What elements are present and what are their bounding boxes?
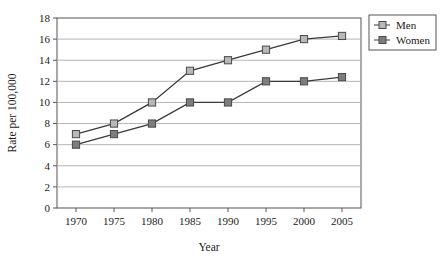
data-point-marker (262, 46, 269, 53)
x-tick-label: 1970 (65, 215, 88, 227)
x-tick-label: 1975 (103, 215, 126, 227)
line-chart: 024681012141618 197019751980198519901995… (0, 0, 444, 258)
data-point-marker (262, 78, 269, 85)
data-point-marker (224, 99, 231, 106)
y-tick-label: 16 (39, 33, 51, 45)
x-tick-label: 1995 (255, 215, 278, 227)
data-point-marker (338, 74, 345, 81)
legend-label-women: Women (396, 34, 430, 46)
chart-canvas: 024681012141618 197019751980198519901995… (0, 0, 444, 258)
data-point-marker (148, 99, 155, 106)
chart-legend: Men Women (369, 15, 436, 50)
y-tick-label: 8 (45, 117, 51, 129)
x-tick-label: 1980 (141, 215, 164, 227)
legend-marker-women-icon (379, 37, 386, 44)
legend-marker-men-icon (379, 22, 386, 29)
x-tick-label: 1990 (217, 215, 240, 227)
data-point-marker (110, 120, 117, 127)
data-point-marker (224, 57, 231, 64)
data-point-marker (300, 78, 307, 85)
data-point-marker (300, 36, 307, 43)
y-tick-label: 2 (45, 181, 51, 193)
data-point-marker (186, 67, 193, 74)
y-tick-label: 0 (45, 202, 51, 214)
plot-frame (57, 18, 361, 208)
data-point-marker (72, 141, 79, 148)
y-tick-label: 18 (39, 12, 51, 24)
x-tick-label: 1985 (179, 215, 202, 227)
x-tick-label: 2005 (331, 215, 354, 227)
data-point-marker (110, 131, 117, 138)
y-tick-label: 4 (45, 160, 51, 172)
legend-label-men: Men (396, 19, 417, 31)
y-axis-title: Rate per 100,000 (6, 73, 19, 152)
data-point-marker (338, 32, 345, 39)
x-axis-title: Year (198, 241, 219, 253)
y-tick-label: 12 (39, 75, 50, 87)
y-tick-label: 14 (39, 54, 51, 66)
x-tick-label: 2000 (293, 215, 316, 227)
y-tick-label: 6 (45, 138, 51, 150)
data-point-marker (148, 120, 155, 127)
y-tick-label: 10 (39, 96, 51, 108)
data-point-marker (186, 99, 193, 106)
data-point-marker (72, 131, 79, 138)
